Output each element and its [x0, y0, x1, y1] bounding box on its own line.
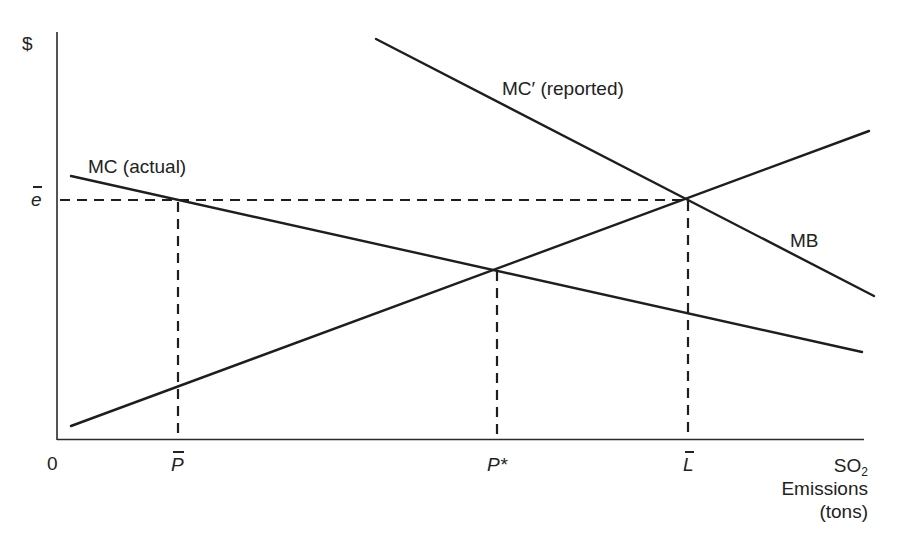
y-tick-e-bar: e: [31, 190, 42, 209]
x-axis-label-line3: (tons): [781, 500, 868, 523]
p-bar-label: P: [171, 455, 184, 474]
x-axis-label-line1: SO2: [781, 454, 868, 477]
emissions-diagram: [0, 0, 899, 543]
curve-label-mb: MB: [790, 231, 819, 250]
e-bar-label: e: [31, 190, 42, 209]
x-axis-label: SO2 Emissions (tons): [781, 454, 868, 523]
guide-lines: [60, 200, 688, 438]
l-bar-label: L: [683, 455, 694, 474]
mc-actual-curve: [71, 176, 862, 352]
curve-label-mc-actual: MC (actual): [88, 157, 186, 176]
curve-label-mc-reported: MC′ (reported): [502, 79, 624, 98]
x-tick-l-bar: L: [683, 455, 694, 474]
curves: [71, 39, 874, 426]
x-tick-p-star: P*: [487, 455, 507, 474]
mc-reported-curve: [376, 39, 874, 296]
mb-curve: [71, 131, 869, 426]
origin-label: 0: [47, 454, 58, 473]
x-axis-label-line2: Emissions: [781, 477, 868, 500]
x-tick-p-bar: P: [171, 455, 184, 474]
y-axis-label: $: [22, 34, 33, 53]
